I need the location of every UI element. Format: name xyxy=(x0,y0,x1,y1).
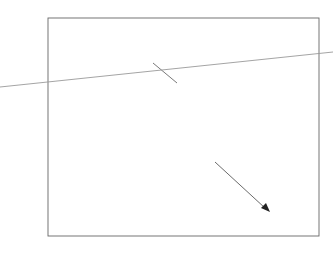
stray-line xyxy=(0,52,333,87)
spectrum-chart xyxy=(0,0,333,280)
annotation-unmodulated-leader xyxy=(153,63,177,83)
annotation-arrow xyxy=(215,162,270,212)
plot-frame xyxy=(48,18,319,236)
arrow-head-icon xyxy=(261,203,270,212)
